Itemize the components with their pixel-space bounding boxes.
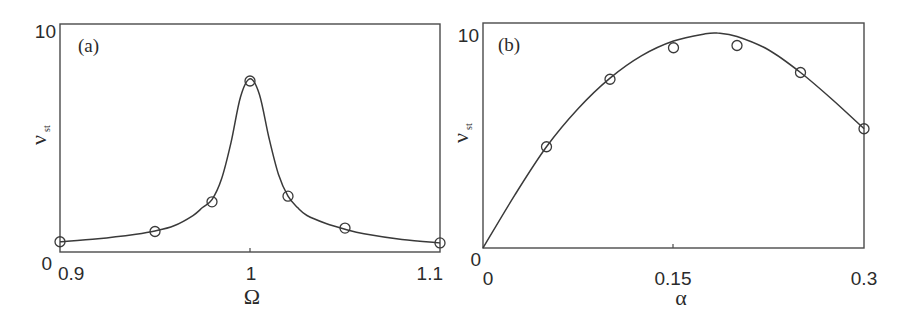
panel-b-curve: [483, 33, 864, 248]
data-point-marker: [669, 43, 679, 53]
panel-a-xlabel: Ω: [244, 284, 260, 309]
panel-b-xtick-right: 0.3: [851, 268, 877, 289]
panel-a-markers: [55, 76, 445, 248]
panel-b-frame: [483, 23, 864, 248]
panel-a-xtick-left: 0.9: [58, 263, 84, 284]
panel-a-ytick-bottom: 0: [41, 253, 52, 274]
panel-b-chart: (b) 10 0 0 0.15 0.3 α ν st: [448, 23, 877, 310]
panel-b-xlabel: α: [675, 285, 687, 310]
svg-text:st: st: [463, 123, 474, 130]
svg-text:ν: ν: [26, 135, 51, 145]
panel-a-ylabel: ν st: [26, 125, 52, 145]
panel-a-label: (a): [78, 35, 99, 57]
svg-text:ν: ν: [448, 133, 473, 143]
svg-text:st: st: [41, 125, 52, 132]
panel-a-curve: [60, 79, 440, 243]
panel-b-ytick-bottom: 0: [470, 249, 481, 270]
panel-a-ytick-top: 10: [35, 21, 56, 42]
data-point-marker: [732, 41, 742, 51]
data-point-marker: [605, 74, 615, 84]
figure: (a) 10 0 0.9 1 1.1 Ω ν st (b) 10 0 0 0.1…: [0, 0, 909, 318]
panel-a-chart: (a) 10 0 0.9 1 1.1 Ω ν st: [26, 21, 445, 309]
panel-a-xtick-right: 1.1: [417, 263, 443, 284]
panel-b-label: (b): [498, 34, 520, 56]
panel-b-ylabel: ν st: [448, 123, 474, 143]
panel-b-ytick-top: 10: [458, 25, 479, 46]
panel-a-frame: [60, 24, 440, 252]
panel-b-xtick-left: 0: [483, 268, 494, 289]
panel-a-xtick-mid: 1: [246, 263, 257, 284]
